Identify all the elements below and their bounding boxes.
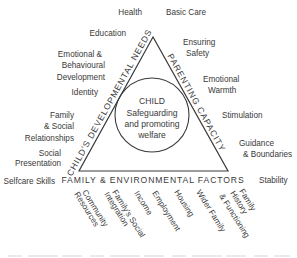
need-education: Education: [90, 29, 127, 38]
capacity-ensuring-safety: Ensuring Safety: [183, 38, 216, 58]
svg-text:Guidance: Guidance: [239, 139, 274, 148]
need-identity: Identity: [72, 88, 99, 97]
svg-text:Behavioural: Behavioural: [62, 61, 105, 70]
svg-text:Relationships: Relationships: [25, 134, 74, 143]
side-label-family-environmental: FAMILY & ENVIRONMENTAL FACTORS: [61, 175, 244, 185]
svg-text:Social: Social: [39, 149, 61, 158]
parenting-capacity-list: Basic Care Ensuring Safety Emotional War…: [166, 8, 292, 185]
side-label-parenting-capacity: PARENTING CAPACITY: [165, 52, 227, 153]
capacity-stability: Stability: [259, 176, 289, 185]
svg-text:Warmth: Warmth: [208, 86, 237, 95]
family-factors-list: Community Resources Family's Social Inte…: [72, 187, 258, 240]
need-family-social-relationships: Family & Social Relationships: [25, 111, 75, 143]
center-title: CHILD: [139, 96, 165, 106]
need-social-presentation: Social Presentation: [15, 149, 61, 168]
capacity-basic-care: Basic Care: [166, 8, 206, 17]
svg-text:Presentation: Presentation: [15, 159, 61, 168]
svg-text:Safety: Safety: [186, 49, 210, 58]
need-emotional-behavioural: Emotional & Behavioural Development: [57, 50, 106, 82]
svg-text:& Social: & Social: [44, 122, 74, 131]
need-selfcare-skills: Selfcare Skills: [4, 177, 55, 186]
center-line-2: and promoting: [125, 119, 180, 129]
svg-text:& Boundaries: & Boundaries: [243, 150, 292, 159]
factor-housing: Housing: [172, 188, 196, 219]
center-line-3: welfare: [137, 130, 166, 140]
assessment-triangle-diagram: CHILD Safeguarding and promoting welfare…: [0, 0, 297, 258]
svg-text:Development: Development: [57, 73, 106, 82]
factor-family-history-functioning: Family History & Functioning: [217, 187, 258, 240]
need-health: Health: [118, 8, 142, 17]
center-line-1: Safeguarding: [126, 108, 177, 118]
svg-text:Emotional &: Emotional &: [58, 50, 103, 59]
svg-text:Ensuring: Ensuring: [183, 38, 216, 47]
capacity-stimulation: Stimulation: [222, 111, 263, 120]
capacity-guidance-boundaries: Guidance & Boundaries: [239, 139, 292, 159]
capacity-emotional-warmth: Emotional Warmth: [203, 75, 240, 95]
svg-text:Emotional: Emotional: [203, 75, 240, 84]
center-label: CHILD Safeguarding and promoting welfare: [125, 96, 180, 140]
svg-text:Family: Family: [50, 111, 75, 120]
